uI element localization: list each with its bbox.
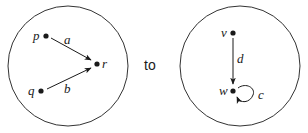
node-q-label: q [28,83,35,98]
edge-c-loop [237,86,254,102]
node-w [230,88,235,93]
edge-a-label: a [64,32,71,47]
node-v [230,30,235,35]
node-p [43,33,48,38]
connector-text: to [144,57,156,73]
node-r-label: r [102,56,108,71]
edge-d-label: d [237,51,244,66]
node-w-label: w [219,83,228,98]
edge-a [51,38,91,60]
edge-b-label: b [64,81,71,96]
left-graph: p q r a b [8,6,128,126]
node-r [94,61,99,66]
right-boundary-circle [180,6,300,126]
node-q [38,88,43,93]
left-boundary-circle [8,6,128,126]
right-graph: v w d c [180,6,300,126]
node-p-label: p [32,28,40,43]
edge-c-label: c [258,87,264,102]
graph-morphism-diagram: p q r a b to v w d c [0,0,308,133]
node-v-label: v [221,25,227,40]
